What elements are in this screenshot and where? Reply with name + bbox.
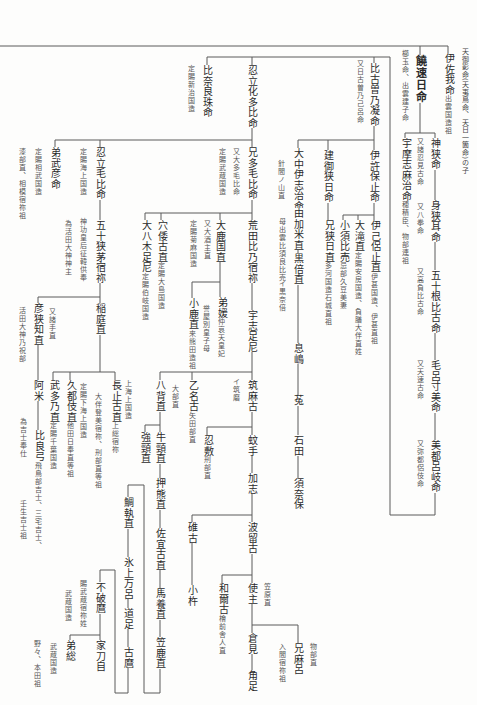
person-hikosono: 比古曽乃凝命 bbox=[369, 63, 380, 126]
person-anawako: 穴倭古直定賜大島国造 bbox=[155, 220, 167, 310]
person-name: 荒田比乃宿祢 bbox=[247, 220, 258, 283]
person-hikamimaro: 氷上万呂 bbox=[123, 557, 134, 599]
person-note: 定賜大島国造 bbox=[157, 262, 165, 310]
person-note: 他田日奉直等祖 bbox=[66, 422, 74, 478]
person-name: 比良弓 bbox=[33, 430, 44, 462]
person-waniko: 和爾古檜前舎人直 bbox=[216, 583, 228, 655]
person-umakai: 馬養直 bbox=[155, 588, 166, 620]
person-name: 由加米直 bbox=[293, 208, 304, 250]
annotation: 誉屋別皇子母 bbox=[202, 305, 210, 353]
person-name: 倉見 bbox=[247, 633, 258, 654]
person-ushikubi: 牛頸直 bbox=[155, 432, 166, 464]
person-name: 五十根比古命 bbox=[430, 270, 441, 333]
person-name: 弟武彦命 bbox=[50, 147, 61, 189]
person-note: 定賜安房国造、負膳大伴直姓 bbox=[354, 252, 362, 356]
annotation: 定賜武蔵国造 bbox=[218, 148, 226, 196]
person-name: 久都伎直 bbox=[65, 380, 76, 422]
person-oshitachimohi: 忍立毛比命 bbox=[95, 147, 106, 200]
annotation: 入間宿祢祖 bbox=[278, 643, 286, 683]
annotation: 又諸忍見古命 bbox=[416, 138, 424, 186]
person-name: 道足 bbox=[123, 608, 134, 629]
annotation: 武蔵国造 bbox=[49, 643, 57, 675]
person-note: 仲哀天皇妃 bbox=[217, 318, 225, 358]
person-ame: 阿米 bbox=[33, 380, 44, 401]
person-name: 神狭命 bbox=[430, 138, 441, 170]
person-takeno: 武多乃直定賜千葉国造 bbox=[47, 380, 59, 470]
person-name: 笠鹿直 bbox=[155, 637, 166, 669]
person-morosumi: 毛呂寸美命 bbox=[430, 360, 441, 413]
person-komaro: 古麿 bbox=[123, 647, 134, 668]
person-sakiko: 佐宜古直 bbox=[155, 528, 166, 570]
person-name: 小杵 bbox=[187, 585, 198, 606]
person-kurobe: 黒倍直 bbox=[293, 253, 304, 285]
person-kutsuki: 久都伎直他田日奉直等祖 bbox=[64, 380, 76, 478]
person-name: 乙名古 bbox=[187, 380, 198, 412]
person-note: 上総宿祢 bbox=[111, 422, 119, 454]
annotation: 野々、本田祖 bbox=[33, 640, 41, 688]
person-otonako: 乙名古矢田部直 bbox=[186, 380, 198, 444]
annotation: 大伴登美宿祢、刑部直等祖 bbox=[94, 393, 102, 489]
person-name: 息嶋 bbox=[293, 343, 304, 364]
person-name: 宇摩志麻治命 bbox=[400, 138, 411, 201]
annotation: 神功皇后征韓供奉 bbox=[79, 218, 87, 282]
genealogy-chart: 天御影命(天夷鳥命、天日一箇命)の子 伊佐我命出雲国造祖 饒速日命 櫛玉命、出雲… bbox=[0, 0, 477, 705]
person-note: 飛鳥部吉士、三宅吉士、 bbox=[34, 462, 42, 550]
person-name: 伊佐我命 bbox=[443, 53, 454, 95]
person-name: 身狭耳命 bbox=[430, 200, 441, 242]
annotation: 壬生吉士祖 bbox=[19, 500, 27, 540]
person-usuko: 碓古 bbox=[187, 522, 198, 543]
annotation: 又高負比古命 bbox=[416, 268, 424, 316]
person-hinarasu: 比奈良珠命 bbox=[202, 65, 213, 118]
person-name: 黒倍直 bbox=[293, 253, 304, 285]
annotation: 上海上国造 bbox=[124, 380, 132, 420]
annotation: 定賜下海上国造 bbox=[79, 383, 87, 439]
person-otofusa: 弟総 bbox=[65, 640, 76, 661]
person-aratahino: 荒田比乃宿祢 bbox=[247, 220, 258, 283]
person-name: 和爾古 bbox=[217, 583, 228, 615]
annotation: 定賜相武国造 bbox=[34, 148, 42, 196]
person-etamohi: 兄多毛比命 bbox=[247, 147, 258, 200]
person-inaniwa: 稲庭直 bbox=[95, 303, 106, 335]
annotation: 大部直 bbox=[171, 385, 179, 409]
person-name: 加志 bbox=[247, 473, 258, 494]
person-kosuhime: 小須比売忌部久豆美妻 bbox=[337, 220, 349, 310]
person-name: 武多乃直 bbox=[48, 380, 59, 422]
person-name: 筑麻古 bbox=[247, 380, 258, 412]
person-sunaho: 須奈保 bbox=[293, 478, 304, 510]
person-name: 弟媛 bbox=[216, 297, 227, 318]
person-name: 忍敷 bbox=[202, 435, 213, 456]
person-nagatoko: 長止古直上総宿祢 bbox=[109, 380, 121, 454]
annotation: 又天速古命 bbox=[416, 360, 424, 400]
person-ikohoto: 伊許保止命 bbox=[369, 150, 380, 203]
person-name: 弟総 bbox=[65, 640, 76, 661]
person-ietoji: 家刀自 bbox=[95, 640, 106, 672]
annotation: 活田大神乃祝部 bbox=[18, 307, 26, 363]
annotation: 武蔵国造 bbox=[64, 590, 72, 622]
person-taitori: 鯛執直 bbox=[123, 497, 134, 529]
annotation: イ筑磨 bbox=[232, 378, 240, 402]
annotation: 又日古曽乃己呂命 bbox=[356, 60, 364, 124]
person-u: 菟 bbox=[293, 395, 304, 406]
person-name: 菟 bbox=[293, 395, 304, 406]
person-name: 大中伊志治命 bbox=[293, 148, 304, 211]
person-name: 長止古直 bbox=[110, 380, 121, 422]
person-name: 角足 bbox=[247, 670, 258, 691]
person-onakaishiji: 大中伊志治命 bbox=[293, 148, 304, 211]
person-oshitachikata: 忍立化多比命 bbox=[247, 65, 258, 128]
person-name: 忍立化多比命 bbox=[247, 65, 258, 128]
person-okishima: 息嶋 bbox=[293, 343, 304, 364]
person-ushi: 宇志足尼 bbox=[247, 310, 258, 352]
parent-heading-note: 天御影命(天夷鳥命、天日一箇命)の子 bbox=[461, 48, 469, 174]
annotation: 又大酒主直 bbox=[203, 220, 211, 260]
person-ototohime: 弟媛仲哀天皇妃 bbox=[215, 297, 227, 358]
annotation: イ黒奈倍 bbox=[278, 280, 286, 312]
person-name: 波留古 bbox=[247, 522, 258, 554]
person-name: 家刀自 bbox=[95, 640, 106, 672]
person-kashi: 加志 bbox=[247, 473, 258, 494]
person-name: 比奈良珠命 bbox=[202, 65, 213, 118]
person-haruko: 波留古 bbox=[247, 522, 258, 554]
person-takemisahi: 建御狭日命 bbox=[323, 150, 334, 203]
annotation: 又弥都侶伎命 bbox=[416, 440, 424, 488]
person-name: 阿米 bbox=[33, 380, 44, 401]
person-yukame: 由加米直 bbox=[293, 208, 304, 250]
